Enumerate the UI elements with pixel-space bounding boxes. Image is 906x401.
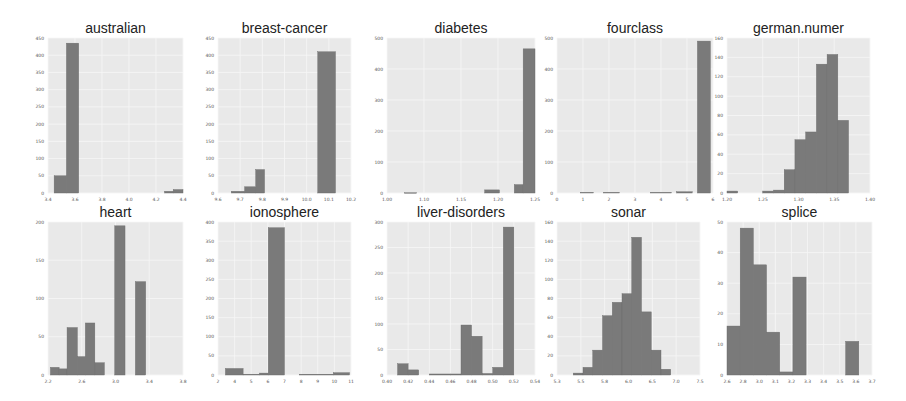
y-tick-label: 50 (208, 173, 214, 178)
histogram-panel-sonar: 0204060801001201401605.35.55.86.06.57.07… (544, 204, 703, 384)
histogram-bar (827, 54, 838, 193)
histogram-bar (318, 52, 336, 193)
panel-title: australian (85, 20, 146, 36)
x-tick-label: 2.2 (44, 379, 51, 384)
y-tick-label: 100 (205, 156, 214, 161)
x-tick-label: 3.0 (756, 379, 763, 384)
x-tick-label: 6.5 (649, 379, 656, 384)
y-tick-label: 500 (544, 36, 553, 41)
x-tick-label: 0.52 (509, 379, 519, 384)
y-tick-label: 60 (717, 132, 723, 137)
histogram-bar (333, 373, 349, 375)
y-tick-label: 200 (374, 271, 383, 276)
y-tick-label: 200 (205, 296, 214, 301)
y-tick-label: 150 (205, 139, 214, 144)
histogram-bar (408, 370, 419, 375)
histogram-bar (77, 357, 85, 375)
y-tick-label: 140 (714, 55, 723, 60)
x-tick-label: 4.2 (152, 197, 159, 202)
x-tick-label: 1.15 (456, 197, 466, 202)
histogram-panel-fourclass: 01002003004005000123456fourclass (544, 20, 714, 202)
histogram-bar (259, 373, 268, 375)
x-tick-label: 1.20 (722, 197, 732, 202)
x-tick-label: 0.44 (424, 379, 434, 384)
histogram-panel-splice: 010203040502.62.83.03.13.23.33.43.53.63.… (717, 204, 875, 384)
y-tick-label: 0 (380, 191, 383, 196)
y-tick-label: 60 (547, 315, 553, 320)
y-tick-label: 50 (38, 173, 44, 178)
y-tick-label: 250 (205, 104, 214, 109)
panel-title: german.numer (753, 20, 844, 36)
x-tick-label: 2.6 (78, 379, 85, 384)
x-tick-label: 4 (233, 379, 236, 384)
y-tick-label: 350 (35, 70, 44, 75)
x-tick-label: 3.6 (71, 197, 78, 202)
histogram-bar (603, 316, 613, 375)
histogram-bar (838, 120, 849, 193)
x-tick-label: 1.25 (758, 197, 768, 202)
y-tick-label: 40 (547, 334, 553, 339)
histogram-bar (405, 193, 417, 194)
histogram-panel-german-numer: 0204060801001201401601.201.251.301.351.4… (714, 20, 875, 202)
y-tick-label: 400 (205, 53, 214, 58)
y-tick-label: 50 (717, 220, 723, 225)
x-tick-label: 10.2 (346, 197, 356, 202)
histogram-bar (632, 237, 642, 375)
histogram-bar (245, 187, 256, 193)
x-tick-label: 1 (582, 197, 585, 202)
x-tick-label: 6 (712, 197, 715, 202)
y-tick-label: 100 (35, 296, 44, 301)
y-tick-label: 50 (208, 353, 214, 358)
y-tick-label: 350 (205, 70, 214, 75)
histogram-bar (85, 323, 95, 375)
histogram-bar (482, 373, 493, 375)
histogram-bar (651, 350, 661, 375)
y-tick-label: 300 (205, 87, 214, 92)
y-tick-label: 100 (374, 322, 383, 327)
y-tick-label: 100 (374, 160, 383, 165)
histogram-bar (677, 192, 693, 193)
histogram-bar (697, 41, 710, 193)
histogram-bar (523, 49, 535, 193)
x-tick-label: 4.4 (179, 197, 186, 202)
histogram-bar (642, 312, 652, 375)
y-tick-label: 80 (717, 113, 723, 118)
y-tick-label: 20 (547, 353, 553, 358)
histogram-bar (622, 294, 632, 375)
histogram-panel-diabetes: 01002003004005001.001.101.151.201.25diab… (374, 20, 540, 202)
histogram-bar (231, 191, 244, 193)
y-tick-label: 0 (211, 373, 214, 378)
y-tick-label: 300 (374, 98, 383, 103)
y-tick-label: 400 (374, 67, 383, 72)
y-tick-label: 0 (41, 373, 44, 378)
y-tick-label: 250 (35, 104, 44, 109)
x-tick-label: 1.00 (382, 197, 392, 202)
x-tick-label: 0.40 (382, 379, 392, 384)
histogram-panel-australian: 0501001502002503003504004503.43.63.84.04… (35, 20, 186, 202)
y-tick-label: 300 (35, 87, 44, 92)
y-tick-label: 400 (544, 67, 553, 72)
histogram-bar (753, 265, 766, 375)
histogram-bar (780, 372, 793, 375)
x-tick-label: 3.2 (788, 379, 795, 384)
y-tick-label: 0 (380, 373, 383, 378)
y-tick-label: 80 (547, 296, 553, 301)
panel-title: splice (782, 204, 818, 220)
x-tick-label: 2.8 (740, 379, 747, 384)
x-tick-label: 5.8 (601, 379, 608, 384)
x-tick-label: 0 (556, 197, 559, 202)
x-tick-label: 3 (634, 197, 637, 202)
x-tick-label: 3.8 (179, 379, 186, 384)
histogram-bar (115, 226, 125, 375)
y-tick-label: 40 (717, 152, 723, 157)
y-tick-label: 0 (550, 373, 553, 378)
x-tick-label: 3.4 (146, 379, 153, 384)
y-tick-label: 300 (544, 98, 553, 103)
x-tick-label: 9 (316, 379, 319, 384)
y-tick-label: 160 (544, 220, 553, 225)
y-tick-label: 300 (374, 220, 383, 225)
y-tick-label: 20 (717, 311, 723, 316)
y-tick-label: 200 (205, 122, 214, 127)
y-tick-label: 450 (35, 36, 44, 41)
histogram-panel-liver-disorders: 0501001502002503000.400.420.440.460.480.… (374, 204, 540, 384)
